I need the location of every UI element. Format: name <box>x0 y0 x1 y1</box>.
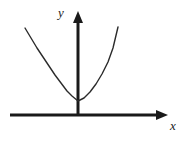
x-axis-label: x <box>169 118 176 133</box>
graph-canvas: y x <box>0 0 184 143</box>
x-axis-arrow-icon <box>156 110 168 120</box>
parabola-figure: y x <box>0 0 184 143</box>
parabola-curve <box>25 27 118 101</box>
y-axis-arrow-icon <box>73 11 83 23</box>
y-axis-label: y <box>56 5 64 20</box>
